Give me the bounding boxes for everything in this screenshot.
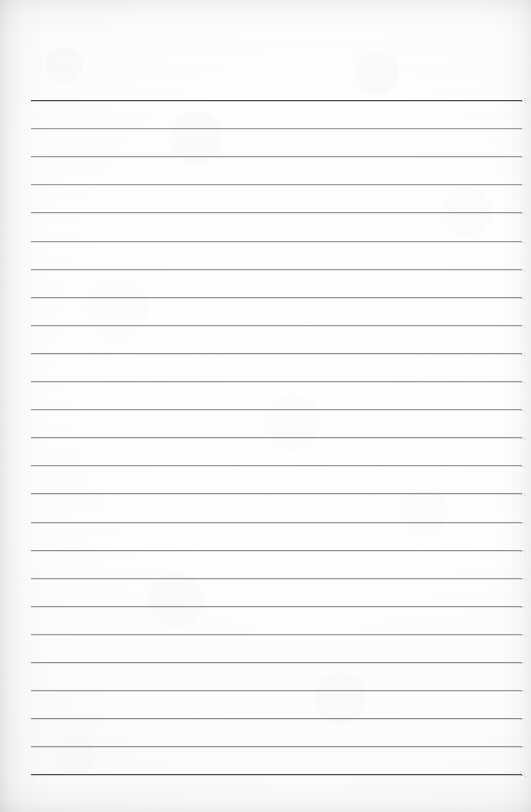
writing-area[interactable]	[31, 72, 522, 788]
notebook-page	[0, 0, 531, 812]
